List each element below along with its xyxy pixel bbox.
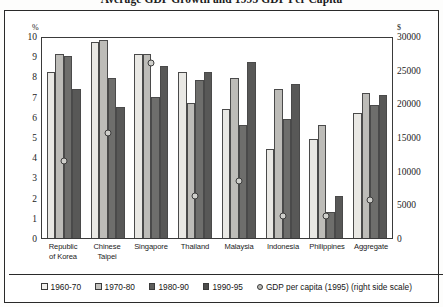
left-tick-label: 7 bbox=[11, 94, 37, 104]
bar bbox=[160, 66, 169, 238]
category-label: Malaysia bbox=[217, 242, 261, 261]
left-tick-label: 0 bbox=[11, 235, 37, 245]
legend-label: 1960-70 bbox=[51, 282, 81, 292]
bar bbox=[187, 103, 196, 238]
left-tick-label: 10 bbox=[11, 33, 37, 43]
bar-group bbox=[348, 38, 392, 238]
legend-label: GDP per capita (1995) (right side scale) bbox=[266, 282, 412, 292]
bar bbox=[47, 72, 56, 238]
bar bbox=[72, 89, 81, 238]
gdp-per-capita-marker bbox=[279, 212, 286, 219]
category-label: Republicof Korea bbox=[41, 242, 85, 261]
bar bbox=[335, 196, 344, 238]
bar bbox=[291, 84, 300, 238]
chart-screenshot: Average GDP Growth and 1995 GDP Per Capi… bbox=[0, 0, 443, 307]
left-tick-label: 4 bbox=[11, 154, 37, 164]
right-tick-label: 30000 bbox=[397, 33, 437, 43]
category-label: Thailand bbox=[173, 242, 217, 261]
bar bbox=[247, 62, 256, 238]
legend-item: 1960-70 bbox=[41, 282, 81, 292]
left-tick-label: 1 bbox=[11, 215, 37, 225]
bar bbox=[178, 72, 187, 238]
bar-group bbox=[217, 38, 261, 238]
legend-swatch-icon bbox=[41, 283, 48, 290]
category-label: Aggregate bbox=[349, 242, 393, 261]
right-axis-unit: $ bbox=[397, 23, 401, 32]
bar-group bbox=[261, 38, 305, 238]
gdp-per-capita-marker bbox=[367, 196, 374, 203]
legend-swatch-icon bbox=[257, 284, 263, 290]
gdp-per-capita-marker bbox=[60, 157, 67, 164]
bar bbox=[151, 97, 160, 238]
gdp-per-capita-marker bbox=[323, 212, 330, 219]
legend-label: 1980-90 bbox=[158, 282, 188, 292]
bar bbox=[91, 42, 100, 238]
left-axis-unit: % bbox=[32, 23, 39, 32]
chart-title: Average GDP Growth and 1995 GDP Per Capi… bbox=[0, 0, 443, 5]
left-tick-label: 8 bbox=[11, 73, 37, 83]
bar bbox=[116, 107, 125, 238]
right-tick-label: 25000 bbox=[397, 67, 437, 77]
bar-group bbox=[42, 38, 86, 238]
bar-group bbox=[173, 38, 217, 238]
legend-item: 1970-80 bbox=[95, 282, 135, 292]
bar bbox=[143, 54, 152, 238]
left-tick-label: 3 bbox=[11, 174, 37, 184]
bar bbox=[353, 113, 362, 238]
bar-group bbox=[305, 38, 349, 238]
bar bbox=[370, 105, 379, 238]
legend-item: GDP per capita (1995) (right side scale) bbox=[257, 282, 412, 292]
chart-frame: % $ 012345678910 05000100001500020000250… bbox=[4, 10, 439, 303]
legend-label: 1970-80 bbox=[105, 282, 135, 292]
right-tick-label: 5000 bbox=[397, 201, 437, 211]
bar bbox=[222, 109, 231, 238]
left-tick-label: 5 bbox=[11, 134, 37, 144]
bar-group bbox=[130, 38, 174, 238]
legend-swatch-icon bbox=[203, 283, 210, 290]
left-tick-label: 6 bbox=[11, 114, 37, 124]
right-tick-label: 15000 bbox=[397, 134, 437, 144]
legend-item: 1980-90 bbox=[149, 282, 189, 292]
bar bbox=[283, 119, 292, 238]
bar bbox=[55, 54, 64, 238]
legend-swatch-icon bbox=[95, 283, 102, 290]
bar-groups bbox=[42, 38, 392, 238]
bar bbox=[64, 56, 73, 238]
category-label: Singapore bbox=[129, 242, 173, 261]
left-tick-label: 2 bbox=[11, 195, 37, 205]
gdp-per-capita-marker bbox=[104, 129, 111, 136]
bar bbox=[266, 149, 275, 238]
right-tick-label: 20000 bbox=[397, 100, 437, 110]
category-label: Philippines bbox=[305, 242, 349, 261]
chart-legend: 1960-701970-801980-901990-95GDP per capi… bbox=[9, 274, 443, 296]
bar bbox=[309, 139, 318, 238]
gdp-per-capita-marker bbox=[148, 59, 155, 66]
category-label: ChineseTaipei bbox=[85, 242, 129, 261]
legend-item: 1990-95 bbox=[203, 282, 243, 292]
category-axis-labels: Republicof KoreaChineseTaipeiSingaporeTh… bbox=[41, 242, 393, 261]
plot-area: 012345678910 050001000015000200002500030… bbox=[41, 37, 393, 239]
bar bbox=[362, 93, 371, 238]
bar bbox=[99, 40, 108, 238]
bar bbox=[134, 54, 143, 238]
gdp-per-capita-marker bbox=[235, 178, 242, 185]
bar bbox=[108, 78, 117, 238]
right-tick-label: 10000 bbox=[397, 168, 437, 178]
gdp-per-capita-marker bbox=[192, 192, 199, 199]
bar-group bbox=[86, 38, 130, 238]
bar bbox=[230, 78, 239, 238]
legend-swatch-icon bbox=[149, 283, 156, 290]
category-label: Indonesia bbox=[261, 242, 305, 261]
right-tick-label: 0 bbox=[397, 235, 437, 245]
bar bbox=[379, 95, 388, 238]
bar bbox=[318, 125, 327, 238]
bar bbox=[204, 72, 213, 238]
bar bbox=[195, 80, 204, 238]
legend-label: 1990-95 bbox=[212, 282, 242, 292]
left-tick-label: 9 bbox=[11, 53, 37, 63]
